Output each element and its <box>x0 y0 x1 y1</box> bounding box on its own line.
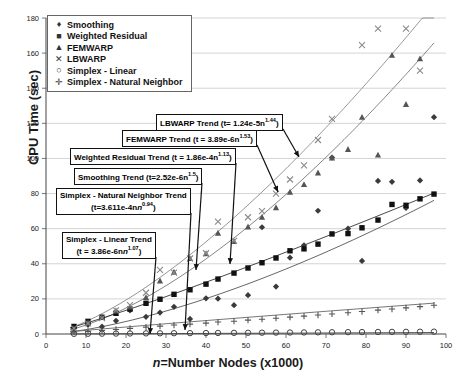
x-axis-tick-label: 0 <box>44 341 48 350</box>
legend-item: ✛Simplex - Natural Neighbor <box>52 77 183 89</box>
data-point <box>187 287 192 292</box>
data-point <box>417 68 423 74</box>
data-point <box>389 202 394 207</box>
data-point <box>417 177 423 183</box>
trendline <box>70 303 434 332</box>
data-point <box>273 315 279 321</box>
data-point <box>287 177 293 183</box>
x-axis-tick-label: 10 <box>82 341 90 350</box>
data-point <box>431 191 436 196</box>
legend-label: Simplex - Natural Neighbor <box>66 77 183 87</box>
legend-item: ♦Smoothing <box>52 19 183 31</box>
x-axis-tick-label: 40 <box>202 341 210 350</box>
data-point <box>315 137 321 143</box>
data-point <box>259 208 265 214</box>
legend-marker-icon: ♦ <box>52 20 66 29</box>
data-point <box>157 309 163 315</box>
legend-marker-icon: ✛ <box>52 78 66 87</box>
data-point <box>259 260 264 265</box>
x-axis-title: n=Number Nodes (x1000) <box>0 356 456 370</box>
annotation-lbwarp: LBWARP Trend (t= 1.24e-5n1.44) <box>156 114 283 131</box>
data-point <box>403 26 409 32</box>
legend-label: Smoothing <box>66 20 114 30</box>
data-point <box>259 316 265 322</box>
annotation-leader-line <box>230 163 236 264</box>
data-point <box>273 255 278 260</box>
y-axis-tick-label: 80 <box>31 189 39 198</box>
data-point <box>375 178 381 184</box>
x-axis-tick-label: 20 <box>122 341 130 350</box>
data-point <box>215 230 221 236</box>
data-point <box>345 310 351 316</box>
data-point <box>403 203 408 208</box>
data-point <box>329 231 334 236</box>
data-point <box>203 295 209 301</box>
data-point <box>245 265 250 270</box>
data-point <box>215 276 220 281</box>
legend-label: Weighted Residual <box>66 31 147 41</box>
data-point <box>315 208 321 214</box>
data-point <box>359 258 365 264</box>
annotation-smooth: Smoothing Trend (t=2.52e-6n1.5) <box>74 168 202 185</box>
chart-legend: ♦Smoothing■Weighted Residual▲FEMWARP✕LBW… <box>47 15 192 92</box>
x-axis-title-rest: =Number Nodes (x1000) <box>160 356 303 370</box>
data-point <box>259 224 265 230</box>
data-point <box>315 170 321 176</box>
data-point <box>301 246 306 251</box>
y-axis-tick-label: 0 <box>35 330 39 339</box>
y-axis-title: CPU Time (sec) <box>26 58 41 178</box>
data-point <box>345 146 351 152</box>
data-point <box>359 114 365 120</box>
data-point <box>245 214 251 220</box>
x-axis-tick-label: 100 <box>440 341 453 350</box>
data-point <box>231 302 237 308</box>
data-point <box>287 255 293 261</box>
data-point <box>359 42 365 48</box>
data-point <box>143 301 148 306</box>
annotation-wres: Weighted Residual Trend (t = 1.86e-4n1.1… <box>70 148 236 165</box>
y-axis-tick-label: 40 <box>31 259 39 268</box>
data-point <box>375 307 381 313</box>
annotation-leader-line <box>196 183 202 270</box>
data-point <box>171 292 176 297</box>
legend-marker-icon: ○ <box>52 66 66 75</box>
data-point <box>301 181 307 187</box>
x-axis-tick-label: 30 <box>162 341 170 350</box>
data-point <box>215 296 221 302</box>
legend-item: ■Weighted Residual <box>52 31 183 43</box>
data-point <box>375 26 381 32</box>
data-point <box>389 306 395 312</box>
annotation-femwarp: FEMWARP Trend (t = 3.89e-6n1.53) <box>122 130 257 147</box>
legend-item: ○Simplex - Linear <box>52 65 183 77</box>
legend-item: ▲FEMWARP <box>52 42 183 54</box>
legend-label: Simplex - Linear <box>66 66 137 76</box>
data-point <box>143 314 149 320</box>
annotation-leader-line <box>185 213 191 330</box>
data-point <box>315 241 320 246</box>
data-point <box>215 219 221 225</box>
legend-label: LBWARP <box>66 54 106 64</box>
x-axis-tick-label: 60 <box>282 341 290 350</box>
data-point <box>301 313 307 319</box>
data-point <box>431 114 437 120</box>
data-point <box>375 217 380 222</box>
data-point <box>329 311 335 317</box>
data-point <box>315 312 321 318</box>
annotation-slin: Simplex - Linear Trend(t = 3.86e-6nn1.07… <box>62 232 156 259</box>
annotation-leader-line <box>257 145 278 192</box>
data-point <box>287 189 293 195</box>
x-axis-tick-label: 50 <box>242 341 250 350</box>
data-point <box>157 267 163 273</box>
y-axis-tick-label: 160 <box>26 49 39 58</box>
data-point <box>287 248 292 253</box>
data-point <box>287 314 293 320</box>
cpu-time-scatter-chart: 0204060801001201401601800102030405060708… <box>0 0 456 378</box>
y-axis-tick-label: 180 <box>26 14 39 23</box>
data-point <box>259 330 264 335</box>
data-point <box>403 101 409 107</box>
data-point <box>231 270 236 275</box>
data-point <box>231 318 237 324</box>
data-point <box>203 281 208 286</box>
y-axis-tick-label: 20 <box>31 294 39 303</box>
data-point <box>359 225 364 230</box>
